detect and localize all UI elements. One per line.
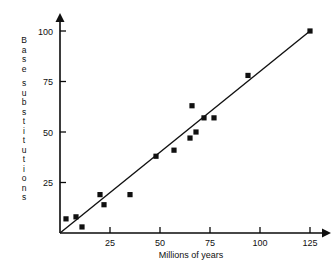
- x-axis-title: Millions of years: [159, 250, 224, 260]
- data-point-marker: [73, 214, 78, 219]
- data-point-marker: [79, 224, 84, 229]
- regression-line: [60, 31, 310, 233]
- data-point-marker: [101, 202, 106, 207]
- data-point-marker: [193, 129, 198, 134]
- data-point-marker: [307, 28, 312, 33]
- data-point-marker: [127, 192, 132, 197]
- data-point-marker: [189, 103, 194, 108]
- x-axis-arrowhead: [322, 229, 331, 238]
- y-tick-label: 25: [43, 178, 53, 188]
- data-point-marker: [97, 192, 102, 197]
- y-tick-label: 75: [43, 77, 53, 87]
- data-point-marker: [201, 115, 206, 120]
- x-tick-label: 50: [155, 238, 165, 248]
- y-tick-label: 50: [43, 128, 53, 138]
- x-tick-label: 75: [205, 238, 215, 248]
- data-point-marker: [187, 135, 192, 140]
- y-tick-label: 100: [38, 27, 53, 37]
- y-axis-ticks: 255075100: [38, 27, 66, 189]
- data-point-marker: [63, 216, 68, 221]
- y-axis-arrowhead: [56, 13, 65, 22]
- x-tick-label: 25: [105, 238, 115, 248]
- x-tick-label: 125: [302, 238, 317, 248]
- data-point-marker: [171, 148, 176, 153]
- data-point-marker: [153, 154, 158, 159]
- data-point-marker: [245, 73, 250, 78]
- data-point-marker: [211, 115, 216, 120]
- chart-page: Basesubstitutions 255075100125 255075100…: [0, 0, 334, 271]
- x-tick-label: 100: [252, 238, 267, 248]
- x-axis-ticks: 255075100125: [105, 227, 318, 248]
- scatter-plot: 255075100125 255075100 Millions of years: [0, 0, 334, 271]
